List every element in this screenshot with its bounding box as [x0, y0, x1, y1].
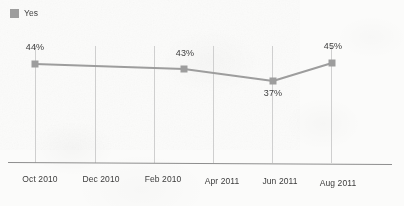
data-point-marker — [32, 61, 39, 68]
data-point-marker — [270, 78, 277, 85]
data-point-marker — [329, 60, 336, 67]
data-label-4: 45% — [324, 41, 343, 51]
plot-area — [0, 0, 404, 206]
x-axis-tick-label-6: Aug 2011 — [320, 178, 357, 188]
gridlines — [36, 46, 332, 163]
x-axis-tick-label-5: Jun 2011 — [262, 176, 297, 186]
x-axis-tick-label-2: Dec 2010 — [82, 174, 119, 184]
x-axis-tick-label-4: Apr 2011 — [205, 176, 240, 186]
data-label-3: 37% — [264, 88, 283, 98]
x-axis-tick-label-1: Oct 2010 — [22, 174, 57, 184]
data-label-2: 43% — [176, 48, 195, 58]
x-axis-baseline — [8, 163, 392, 165]
data-point-marker — [181, 66, 188, 73]
data-label-1: 44% — [26, 42, 45, 52]
series-markers — [32, 60, 336, 85]
line-chart: Yes 44% 43% 37% 45% Oct 2010 Dec 2010 Fe… — [0, 0, 404, 206]
x-axis-tick-label-3: Feb 2010 — [145, 174, 182, 184]
